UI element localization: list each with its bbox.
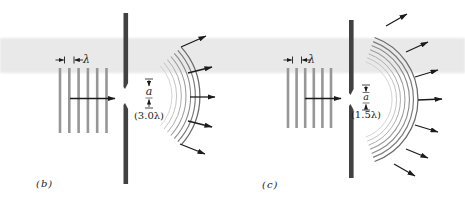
slit-width-letter-c: a [360, 92, 372, 102]
diffracted-wavefront-arc [171, 57, 186, 136]
wavefront-bar [87, 68, 90, 133]
barrier-upper [124, 13, 129, 89]
diffracted-wavefront-arc [372, 46, 410, 154]
panel-caption-c: (c) [262, 180, 278, 190]
diffracted-wavefront-arc [369, 54, 401, 145]
wavefront-bar [105, 68, 108, 133]
ray-arrow [415, 125, 438, 132]
wavefront-bar [77, 68, 80, 133]
ray-arrow [181, 36, 206, 47]
ray-arrow [386, 14, 407, 26]
ray-arrow [188, 67, 212, 73]
ray-arrow [406, 149, 428, 158]
wavefront-bar [96, 68, 99, 133]
wavelength-lambda-label-c: λ [308, 54, 315, 65]
ray-arrow [180, 144, 205, 154]
ray-arrow [406, 42, 428, 52]
panel-b [56, 13, 216, 184]
slit-width-value-c: (1.5λ) [349, 110, 383, 120]
panel-caption-b: (b) [36, 179, 53, 189]
wavefront-bar [287, 68, 290, 128]
slit-width-value-b: (3.0λ) [132, 111, 166, 121]
wavefront-bar [295, 68, 298, 128]
diffracted-wavefront-arc [370, 50, 405, 150]
barrier-lower [124, 103, 129, 184]
slit-width-letter-b: a [143, 86, 155, 97]
diffraction-diagram-canvas [0, 0, 465, 203]
ray-arrow [418, 99, 442, 100]
diffraction-figure: λ a (3.0λ) (b) λ a (1.5λ) (c) [0, 0, 465, 203]
wavefront-bar [68, 68, 71, 133]
ray-arrow [188, 121, 212, 127]
barrier-upper [349, 20, 354, 95]
ray-arrow [394, 164, 415, 176]
wavelength-lambda-label-b: λ [83, 54, 90, 65]
ray-arrow [415, 70, 438, 77]
wavefront-bar [59, 68, 62, 133]
